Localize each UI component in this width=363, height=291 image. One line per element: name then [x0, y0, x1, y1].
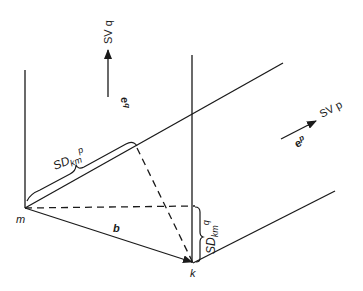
sv-q-label: SV q: [102, 20, 114, 44]
dashed-horizontal-projection: [25, 206, 195, 208]
upper-oblique-line: [25, 63, 283, 208]
point-m-label: m: [16, 213, 25, 225]
diagram-canvas: m k b SV q eq SV p ep SDkmp SDkmq: [0, 0, 363, 291]
unit-vector-eq-label: eq: [119, 97, 132, 108]
vector-b: [25, 208, 192, 262]
sd-kmp-label: SDkmp: [50, 144, 88, 174]
brace-sd-kmq: [195, 207, 203, 262]
vector-b-label: b: [113, 222, 120, 234]
point-k-label: k: [190, 267, 196, 279]
sv-p-label: SV p: [317, 98, 344, 120]
unit-vector-ep-label: ep: [292, 133, 308, 150]
